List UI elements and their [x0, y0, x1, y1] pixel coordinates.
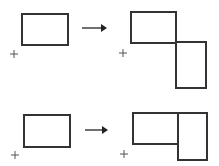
row-1-right-arrow-icon [82, 24, 107, 32]
row-2-after [120, 113, 207, 160]
row-1-after-rectangle-b [176, 42, 206, 88]
transformation-diagram [0, 0, 219, 166]
row-1-before [10, 14, 68, 58]
row-1-after [119, 12, 206, 88]
row-2-after-rectangle-a [133, 113, 178, 144]
row-1-after-rectangle-a [131, 12, 176, 43]
row-2-after-origin-plus-icon [120, 150, 128, 158]
row-1-before-origin-plus-icon [10, 50, 18, 58]
row-2-after-rectangle-b [178, 113, 207, 160]
row-2-before-rectangle [24, 115, 70, 147]
row-2-before [11, 115, 70, 159]
row-2-before-origin-plus-icon [11, 151, 19, 159]
row-2-right-arrow-icon [85, 126, 108, 134]
row-1-after-origin-plus-icon [119, 49, 127, 57]
row-1-before-rectangle [22, 14, 68, 45]
